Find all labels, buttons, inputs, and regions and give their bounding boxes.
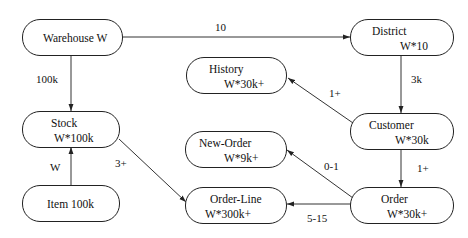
edge-label-customer-history: 1+ — [329, 87, 341, 99]
edge-label-district-customer: 3k — [411, 73, 422, 85]
node-name: Warehouse W — [43, 32, 107, 45]
node-cardinality: W*10 — [400, 40, 428, 53]
edge-order-neworder — [287, 150, 353, 198]
node-history: History W*30k+ — [186, 57, 287, 94]
node-cardinality: W*300k+ — [205, 208, 251, 221]
node-name: Order — [381, 193, 408, 206]
node-new-order: New-Order W*9k+ — [185, 131, 287, 168]
edge-label-warehouse-stock: 100k — [36, 73, 58, 85]
entity-relationship-diagram: Warehouse W District W*10 History W*30k+… — [0, 0, 468, 238]
node-warehouse: Warehouse W — [22, 19, 123, 56]
node-name: District — [372, 25, 407, 38]
edge-customer-history — [288, 78, 353, 123]
node-name: Customer — [369, 119, 414, 132]
edge-stock-orderline — [119, 139, 186, 202]
node-customer: Customer W*30k — [350, 113, 454, 150]
node-order: Order W*30k+ — [350, 187, 454, 224]
edge-label-customer-order: 1+ — [417, 162, 429, 174]
node-name: Stock — [51, 117, 77, 130]
node-cardinality: W*30k+ — [224, 78, 264, 91]
node-order-line: Order-Line W*300k+ — [185, 187, 287, 224]
node-name: Order-Line — [210, 193, 262, 206]
edge-label-stock-orderline: 3+ — [115, 157, 127, 169]
edge-label-item-stock: W — [50, 161, 60, 173]
edge-label-order-neworder: 0-1 — [324, 160, 339, 172]
node-stock: Stock W*100k — [22, 111, 120, 148]
node-name: Item 100k — [47, 198, 94, 211]
node-district: District W*10 — [350, 19, 454, 56]
node-cardinality: W*30k+ — [387, 208, 427, 221]
node-name: History — [209, 63, 244, 76]
node-name: New-Order — [199, 137, 251, 150]
edge-label-warehouse-district: 10 — [215, 21, 226, 33]
edge-label-order-orderline: 5-15 — [307, 212, 327, 224]
node-cardinality: W*9k+ — [224, 152, 259, 165]
node-item: Item 100k — [22, 185, 120, 222]
node-cardinality: W*100k — [54, 132, 94, 145]
node-cardinality: W*30k — [395, 134, 429, 147]
